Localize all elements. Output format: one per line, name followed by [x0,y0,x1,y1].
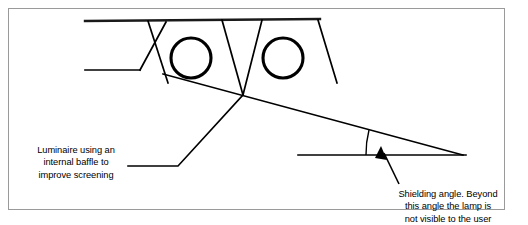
arrowhead-icon [375,146,387,160]
baffle-left-fin [148,21,168,83]
leader-line-left [128,95,243,166]
baffle-center-right-fin [243,20,262,95]
label-luminaire-baffle: Luminaire using an internal baffle to im… [24,144,128,181]
ceiling-line [85,19,320,21]
luminaire-right-slant [318,20,337,83]
figure-container: Luminaire using an internal baffle to im… [0,0,528,225]
lamp-circle [171,38,211,78]
baffle-center-left-fin [222,20,243,95]
leader-line-right [384,153,399,184]
label-shielding-angle: Shielding angle. Beyond this angle the l… [392,188,504,225]
shielding-angle-arc [366,130,369,155]
lamp-circle [263,38,303,78]
sight-line [163,74,463,155]
